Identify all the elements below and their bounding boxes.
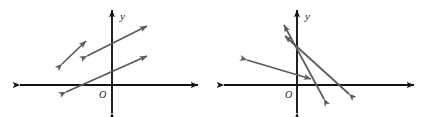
right-vectors-group <box>247 25 349 99</box>
right-plane-svg: y O <box>214 0 427 117</box>
right-coordinate-plane-panel: y O <box>214 0 427 117</box>
vector-long-upper <box>87 26 147 56</box>
vector-horizontal-shallow <box>247 60 311 79</box>
y-axis-label: y <box>119 10 125 22</box>
vector-long-lower <box>66 56 147 92</box>
origin-label: O <box>99 89 106 100</box>
vector-short-upper-left <box>62 41 86 64</box>
left-axes-group <box>20 10 198 113</box>
y-axis-label: y <box>304 10 310 22</box>
origin-label: O <box>285 89 292 100</box>
left-plane-svg: y O <box>0 0 214 117</box>
figure-root: y O y O <box>0 0 427 117</box>
left-coordinate-plane-panel: y O <box>0 0 214 117</box>
left-vectors-group <box>62 26 147 92</box>
vector-steep-left <box>284 25 324 99</box>
